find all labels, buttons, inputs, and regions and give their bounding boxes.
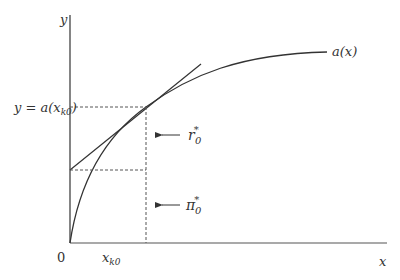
- r0-star-label: r*0: [188, 124, 202, 146]
- pi0-subscript: 0: [195, 205, 202, 216]
- curve-label: a(x): [332, 44, 357, 59]
- tangent-y-label-suffix: ): [71, 100, 77, 115]
- pi0-star-label: π*0: [185, 194, 202, 216]
- pi0-superscript: *: [194, 194, 199, 205]
- r0-superscript: *: [194, 124, 199, 135]
- origin-label: 0: [57, 250, 65, 265]
- y-axis-label: y: [59, 12, 68, 27]
- x-axis-label: x: [379, 254, 387, 269]
- xk0-label-subscript: k0: [109, 257, 120, 267]
- diagram-canvas: y x 0 a(x) y = a(xk0) xk0 r*0 π*0: [0, 0, 400, 280]
- tangent-y-label: y = a(xk0): [13, 100, 77, 117]
- tangent-line: [70, 64, 201, 170]
- xk0-label: xk0: [102, 250, 121, 267]
- tangent-y-label-subscript: k0: [61, 107, 72, 117]
- tangent-y-label-prefix: y = a(x: [13, 100, 61, 115]
- r0-subscript: 0: [195, 135, 202, 146]
